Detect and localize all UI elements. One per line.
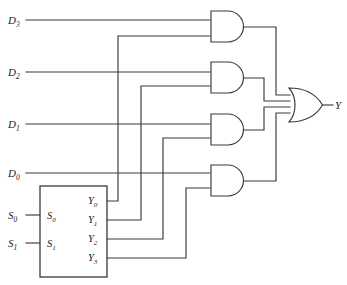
and-gate-1-body [211,11,243,42]
decoder-block[interactable]: S0 S1 Y0 Y1 Y2 Y3 [40,186,107,277]
input-label-d3: D3 [7,14,20,29]
wire-y3-to-and4 [107,188,210,258]
wire-and2-to-or [244,78,291,101]
select-input-wires-group [26,215,40,243]
schematic-canvas: D3 D2 D1 D0 S0 S1 S0 S1 Y0 Y1 Y2 Y3 [0,0,347,285]
input-label-d1: D1 [7,118,20,133]
logic-circuit-diagram: D3 D2 D1 D0 S0 S1 S0 S1 Y0 Y1 Y2 Y3 [0,0,347,285]
input-label-s0: S0 [8,209,18,224]
output-label-y: Y [335,99,343,111]
input-labels-group: D3 D2 D1 D0 S0 S1 [7,14,20,252]
wire-y1-to-and2 [107,86,210,220]
wire-y0-to-and1 [107,36,210,201]
wire-and4-to-or [244,113,291,181]
or-gate[interactable]: Y [289,88,343,122]
wire-and3-to-or [244,107,291,130]
wire-and1-to-or [244,27,291,95]
decoder-output-wires-group [107,36,210,258]
input-label-d2: D2 [7,66,20,81]
and-gate-2-body [211,62,243,93]
and-gate-4-body [211,165,243,196]
input-label-d0: D0 [7,167,20,182]
or-gate-body [289,88,323,122]
and-gate-3-body [211,114,243,145]
input-label-s1: S1 [8,237,17,252]
